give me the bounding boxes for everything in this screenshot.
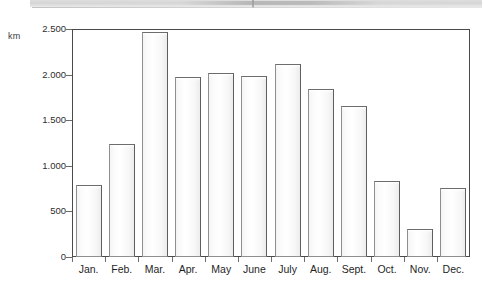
bar[interactable]: [341, 106, 367, 257]
bar[interactable]: [208, 73, 234, 257]
bar[interactable]: [308, 89, 334, 257]
bar[interactable]: [142, 32, 168, 257]
x-axis-tick-mark: [271, 257, 272, 262]
bar[interactable]: [440, 188, 466, 257]
bar[interactable]: [109, 144, 135, 257]
x-axis-tick-mark: [337, 257, 338, 262]
bar[interactable]: [407, 229, 433, 257]
y-axis-tick-label: 500: [26, 205, 66, 216]
bar-series: [72, 29, 470, 257]
x-axis-tick-mark: [371, 257, 372, 262]
x-axis-tick-mark: [172, 257, 173, 262]
x-axis-tick-mark: [238, 257, 239, 262]
y-axis-unit-label: km: [8, 31, 20, 41]
bar-chart: km 05001.0001.5002.0002.500 Jan.Feb.Mar.…: [0, 0, 497, 290]
x-axis-tick-mark: [304, 257, 305, 262]
x-axis-tick-mark: [105, 257, 106, 262]
x-axis-tick-mark: [138, 257, 139, 262]
bar[interactable]: [241, 76, 267, 257]
y-axis-tick-label: 2.000: [26, 69, 66, 80]
x-axis-tick-mark: [404, 257, 405, 262]
x-axis-tick-mark: [437, 257, 438, 262]
x-axis-tick-label: Dec.: [430, 263, 476, 275]
bar[interactable]: [175, 77, 201, 257]
y-axis-tick-label: 1.500: [26, 114, 66, 125]
bar[interactable]: [275, 64, 301, 257]
bar[interactable]: [374, 181, 400, 257]
y-axis-tick-label: 2.500: [26, 23, 66, 34]
x-axis-tick-mark: [205, 257, 206, 262]
y-axis-tick-label: 1.000: [26, 160, 66, 171]
x-axis-tick-mark: [72, 257, 73, 262]
y-axis-tick-label: 0: [26, 251, 66, 262]
bar[interactable]: [76, 185, 102, 257]
